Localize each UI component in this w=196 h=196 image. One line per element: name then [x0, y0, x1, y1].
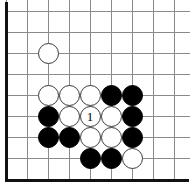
stone-black[interactable]: [122, 106, 143, 127]
grid-line-vertical: [174, 0, 175, 181]
grid-line-vertical: [27, 0, 28, 181]
stone-black[interactable]: [59, 127, 80, 148]
grid-line-vertical: [153, 0, 154, 181]
grid-line-horizontal: [6, 11, 190, 12]
stone-white[interactable]: [59, 106, 80, 127]
board-edge-bottom: [5, 179, 189, 182]
board-edge-left: [5, 2, 8, 180]
stone-white[interactable]: [38, 43, 59, 64]
stone-white[interactable]: [122, 148, 143, 169]
stone-black[interactable]: [101, 148, 122, 169]
grid-line-horizontal: [6, 74, 190, 75]
stone-white[interactable]: [101, 106, 122, 127]
stone-white[interactable]: [59, 85, 80, 106]
go-diagram: 1: [0, 0, 196, 196]
stone-white[interactable]: [101, 127, 122, 148]
stone-black[interactable]: [122, 127, 143, 148]
stone-white[interactable]: 1: [80, 106, 101, 127]
grid-line-horizontal: [6, 53, 190, 54]
go-board[interactable]: 1: [0, 0, 196, 196]
stone-black[interactable]: [122, 85, 143, 106]
stone-black[interactable]: [80, 148, 101, 169]
stone-white[interactable]: [38, 85, 59, 106]
stone-black[interactable]: [101, 85, 122, 106]
stone-black[interactable]: [38, 106, 59, 127]
grid-line-horizontal: [6, 32, 190, 33]
move-number-label: 1: [87, 110, 94, 123]
stone-black[interactable]: [38, 127, 59, 148]
stone-white[interactable]: [80, 127, 101, 148]
stone-white[interactable]: [80, 85, 101, 106]
